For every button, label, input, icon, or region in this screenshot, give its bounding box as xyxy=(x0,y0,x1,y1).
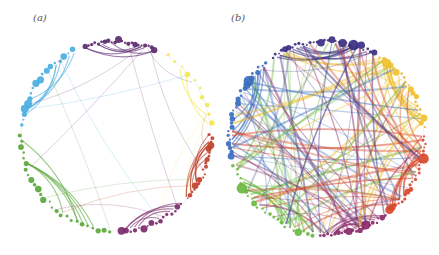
node-magenta xyxy=(330,234,333,237)
node-green xyxy=(231,164,235,168)
node-green xyxy=(239,182,242,185)
node-blue xyxy=(37,76,44,83)
node-yellow-orange xyxy=(414,101,417,104)
node-green xyxy=(283,226,286,229)
node-blue xyxy=(227,130,229,132)
node-purple-top xyxy=(106,39,110,43)
node-red xyxy=(192,183,198,189)
node-green xyxy=(23,151,25,153)
node-green xyxy=(80,222,85,227)
node-red-orange xyxy=(403,197,406,200)
node-indigo-top xyxy=(286,45,291,50)
node-magenta xyxy=(336,230,341,235)
node-yellow-orange xyxy=(408,84,410,86)
node-purple-bottom xyxy=(174,210,176,212)
node-green xyxy=(236,173,238,175)
node-blue xyxy=(255,70,260,75)
node-green xyxy=(55,209,59,213)
node-yellow xyxy=(167,53,170,56)
node-green xyxy=(280,220,284,224)
node-green xyxy=(295,229,302,236)
node-green xyxy=(102,228,107,233)
node-green xyxy=(277,218,280,221)
node-blue xyxy=(54,62,56,64)
node-blue xyxy=(48,64,53,69)
node-blue xyxy=(229,112,234,117)
node-red-orange xyxy=(418,172,421,175)
node-blue xyxy=(264,61,267,64)
node-green xyxy=(70,219,73,222)
node-green xyxy=(39,193,42,196)
node-magenta xyxy=(371,221,375,225)
node-magenta xyxy=(326,232,329,235)
node-yellow xyxy=(209,120,214,125)
node-indigo-top xyxy=(278,53,280,55)
node-yellow-orange xyxy=(418,113,421,116)
node-indigo-top xyxy=(306,44,308,46)
node-yellow xyxy=(207,113,210,116)
node-green xyxy=(293,230,295,232)
node-purple-top xyxy=(141,45,143,47)
node-yellow-orange xyxy=(424,126,426,128)
node-red-orange xyxy=(397,202,399,204)
node-red xyxy=(204,161,207,164)
node-magenta xyxy=(341,232,343,234)
node-magenta xyxy=(322,234,326,238)
node-green xyxy=(272,216,275,219)
panel-a-circular-graph xyxy=(0,0,220,255)
edge xyxy=(159,115,207,219)
node-yellow-orange xyxy=(404,81,407,84)
node-purple-top xyxy=(121,40,123,42)
node-yellow-orange xyxy=(400,72,403,75)
node-blue xyxy=(60,53,67,60)
node-indigo-top xyxy=(274,53,277,56)
node-blue xyxy=(20,123,23,126)
node-yellow xyxy=(173,60,176,63)
node-red-orange xyxy=(403,193,407,197)
node-purple-bottom xyxy=(147,225,149,227)
node-indigo-top xyxy=(308,41,311,44)
node-indigo-top xyxy=(346,42,348,44)
node-magenta xyxy=(333,232,336,235)
node-purple-top xyxy=(115,36,122,43)
node-red-orange xyxy=(423,147,425,149)
node-indigo-top xyxy=(357,41,365,49)
node-purple-bottom xyxy=(118,227,126,235)
node-blue xyxy=(30,92,32,94)
node-yellow-orange xyxy=(416,105,419,108)
node-green xyxy=(18,144,24,150)
node-red-orange xyxy=(418,167,421,170)
node-green xyxy=(256,206,258,208)
node-green xyxy=(24,161,29,166)
node-purple-top xyxy=(90,43,93,46)
node-blue xyxy=(229,138,231,140)
node-green xyxy=(24,168,28,172)
node-purple-bottom xyxy=(149,220,155,226)
node-green xyxy=(59,214,63,218)
node-yellow-orange xyxy=(419,121,424,126)
node-purple-top xyxy=(126,42,130,46)
edge xyxy=(86,48,154,57)
node-blue xyxy=(67,52,69,54)
node-red xyxy=(208,155,211,158)
node-purple-top xyxy=(100,40,103,43)
node-blue xyxy=(230,121,233,124)
node-blue xyxy=(70,47,75,52)
node-purple-bottom xyxy=(155,222,158,225)
node-blue xyxy=(230,116,236,122)
node-blue xyxy=(32,87,34,89)
node-purple-top xyxy=(137,44,140,47)
panel-b-network-diagram: (b) xyxy=(219,0,439,255)
node-green xyxy=(66,215,69,218)
node-purple-top xyxy=(83,44,88,49)
node-green xyxy=(311,234,315,238)
edge xyxy=(61,61,160,218)
node-green xyxy=(51,207,53,209)
node-blue xyxy=(226,141,231,146)
node-purple-top xyxy=(124,42,126,44)
node-yellow-orange xyxy=(388,63,394,69)
node-blue xyxy=(239,89,242,92)
node-purple-top xyxy=(143,43,147,47)
node-green xyxy=(92,227,95,230)
node-indigo-top xyxy=(366,47,369,50)
